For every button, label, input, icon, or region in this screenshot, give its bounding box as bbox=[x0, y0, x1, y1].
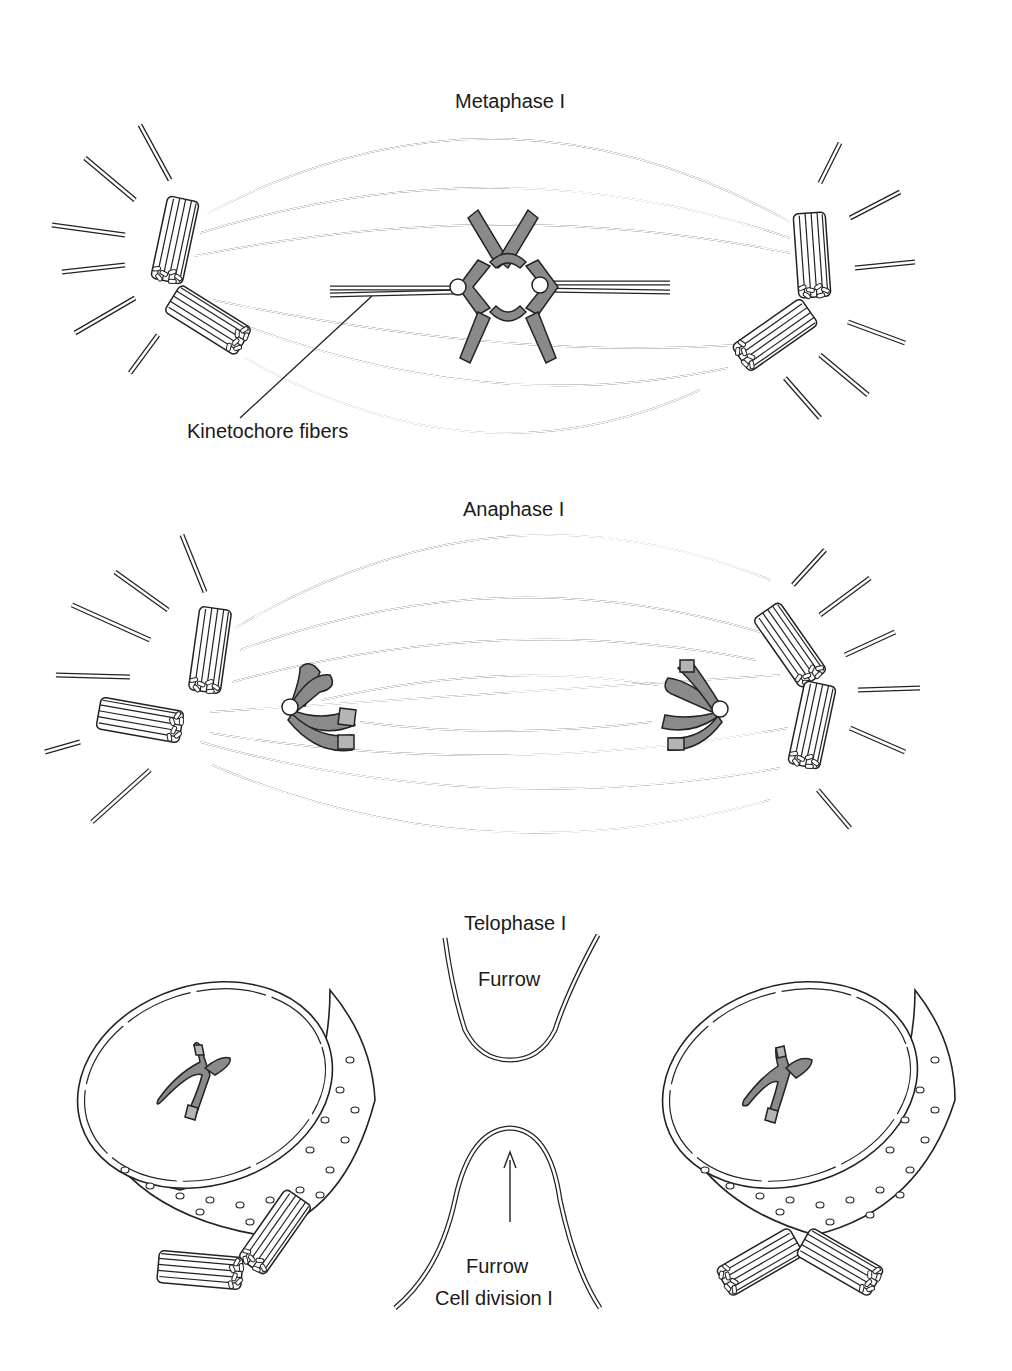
cleavage-furrow-top bbox=[445, 935, 598, 1060]
metaphase-panel bbox=[52, 125, 915, 433]
telophase-panel bbox=[50, 935, 955, 1308]
centriole-pair-right-metaphase bbox=[729, 212, 831, 373]
kinetochore-anaphase-right bbox=[712, 701, 728, 717]
arrow-up-icon bbox=[504, 1152, 516, 1222]
anaphase-panel bbox=[45, 535, 920, 833]
spindle-fibers-metaphase bbox=[195, 139, 790, 433]
meiosis-diagram bbox=[0, 0, 1012, 1371]
kinetochore-leader-line bbox=[240, 296, 372, 418]
nucleus-right bbox=[635, 950, 955, 1235]
kinetochore-right bbox=[532, 277, 548, 293]
centriole-pair-right-telophase bbox=[714, 1227, 887, 1299]
astral-rays-left bbox=[52, 125, 170, 373]
cleavage-furrow-bottom bbox=[395, 1128, 600, 1308]
kinetochore-anaphase-left bbox=[282, 699, 298, 715]
kinetochore-fibers bbox=[240, 283, 670, 418]
centriole-pair-left-metaphase bbox=[150, 195, 254, 357]
kinetochore-left bbox=[450, 279, 466, 295]
centriole-pair-right-anaphase bbox=[752, 601, 836, 771]
astral-rays-left-anaphase bbox=[45, 535, 205, 822]
nucleus-left bbox=[50, 950, 375, 1235]
